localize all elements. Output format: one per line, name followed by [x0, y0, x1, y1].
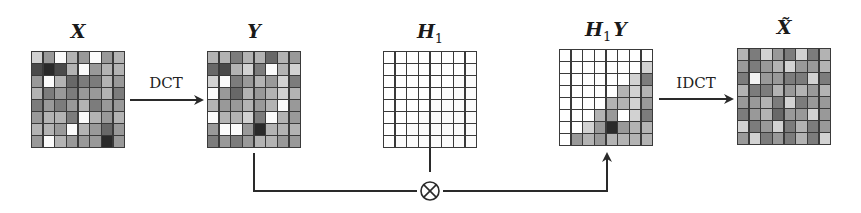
multiply-icon: [421, 182, 439, 200]
y-to-multiply-wire: [254, 153, 417, 191]
connectors: [0, 0, 861, 213]
multiply-to-h1y-arrow: [443, 154, 607, 191]
